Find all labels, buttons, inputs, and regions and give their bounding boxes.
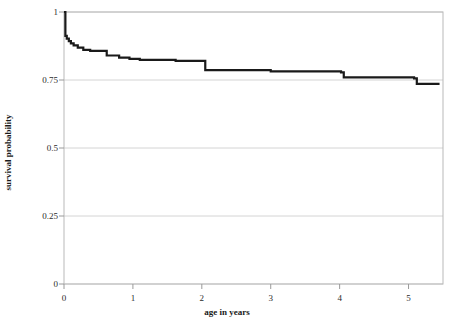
x-tick-label: 4: [337, 294, 342, 303]
x-tick-label: 5: [406, 294, 411, 303]
survival-curve-path: [64, 12, 440, 84]
x-tick-label: 0: [62, 294, 67, 303]
survival-curve-figure: 00.250.50.751 012345 age in years surviv…: [0, 0, 454, 326]
survival-step-line: [64, 12, 440, 84]
x-tick-label: 3: [268, 294, 273, 303]
gridline-group: [64, 12, 443, 284]
chart-canvas: [0, 0, 454, 326]
x-tick-label: 1: [131, 294, 136, 303]
x-tick-label: 2: [200, 294, 205, 303]
y-tick-label: 0.5: [18, 144, 58, 153]
y-tick-label: 0.25: [18, 212, 58, 221]
axis-tick-marks: [59, 12, 409, 289]
y-axis-title: survival probability: [4, 93, 13, 213]
y-tick-label: 0.75: [18, 76, 58, 85]
x-axis-title: age in years: [0, 308, 454, 317]
y-tick-label: 1: [18, 8, 58, 17]
y-tick-label: 0: [18, 280, 58, 289]
